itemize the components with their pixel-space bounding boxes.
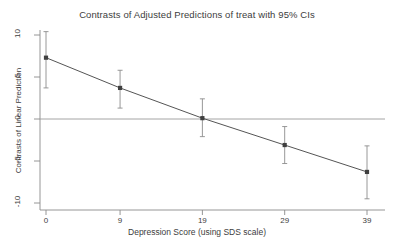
x-axis-ticks — [46, 210, 367, 215]
x-tick-label-0: 0 — [36, 216, 56, 225]
y-tick-label-5: 5 — [13, 63, 22, 89]
plot-area-svg — [0, 0, 394, 248]
data-point-19 — [200, 116, 204, 120]
x-tick-label-19: 19 — [192, 216, 212, 225]
y-tick-label--5: -5 — [13, 147, 22, 173]
data-point-0 — [44, 56, 48, 60]
x-tick-label-9: 9 — [110, 216, 130, 225]
x-axis-title: Depression Score (using SDS scale) — [0, 227, 394, 237]
x-tick-label-39: 39 — [357, 216, 377, 225]
data-point-29 — [283, 143, 287, 147]
data-point-9 — [118, 86, 122, 90]
data-point-39 — [365, 170, 369, 174]
y-axis-ticks — [34, 35, 40, 203]
y-tick-label-10: 10 — [13, 21, 22, 47]
contrast-trend-line — [46, 58, 367, 172]
y-tick-label--10: -10 — [13, 189, 22, 215]
y-tick-label-0: 0 — [13, 105, 22, 131]
x-tick-label-29: 29 — [275, 216, 295, 225]
chart-container: Contrasts of Adjusted Predictions of tre… — [0, 0, 394, 248]
error-bars-group — [44, 32, 370, 199]
